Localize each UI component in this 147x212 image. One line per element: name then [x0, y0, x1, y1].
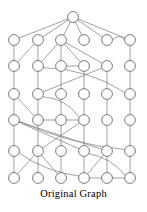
graph-node[interactable]: [33, 61, 44, 72]
graph-node[interactable]: [125, 35, 136, 46]
graph-diagram: [0, 0, 147, 190]
graph-edge: [75, 22, 81, 35]
graph-node[interactable]: [79, 146, 90, 157]
node-layer: [9, 12, 136, 184]
graph-node[interactable]: [102, 146, 113, 157]
graph-node[interactable]: [9, 115, 20, 126]
graph-node[interactable]: [9, 61, 20, 72]
graph-node[interactable]: [125, 146, 136, 157]
graph-node[interactable]: [79, 35, 90, 46]
graph-node[interactable]: [56, 146, 67, 157]
graph-edge: [19, 122, 79, 149]
graph-node[interactable]: [33, 115, 44, 126]
graph-node[interactable]: [56, 89, 67, 100]
graph-edge: [18, 44, 35, 62]
graph-node[interactable]: [9, 146, 20, 157]
graph-node[interactable]: [102, 115, 113, 126]
graph-edge: [19, 153, 79, 176]
graph-node[interactable]: [56, 173, 67, 184]
graph-node[interactable]: [125, 173, 136, 184]
graph-node[interactable]: [9, 35, 20, 46]
graph-node[interactable]: [102, 61, 113, 72]
graph-node[interactable]: [102, 173, 113, 184]
graph-edge: [43, 68, 102, 92]
graph-node[interactable]: [56, 61, 67, 72]
graph-node[interactable]: [125, 89, 136, 100]
graph-node[interactable]: [79, 89, 90, 100]
graph-node[interactable]: [33, 35, 44, 46]
graph-edge: [42, 44, 58, 62]
edge-layer: [14, 19, 130, 178]
graph-node[interactable]: [9, 89, 20, 100]
graph-node[interactable]: [79, 61, 90, 72]
graph-node[interactable]: [56, 115, 67, 126]
graph-node[interactable]: [56, 35, 67, 46]
graph-node[interactable]: [9, 173, 20, 184]
figure-caption: Original Graph: [0, 188, 147, 199]
graph-node[interactable]: [33, 89, 44, 100]
graph-node[interactable]: [102, 89, 113, 100]
graph-node[interactable]: [79, 173, 90, 184]
graph-edge: [63, 22, 70, 35]
graph-node[interactable]: [79, 115, 90, 126]
graph-edge: [18, 98, 35, 116]
figure-container: Original Graph: [0, 0, 147, 212]
graph-node[interactable]: [125, 115, 136, 126]
graph-node[interactable]: [102, 35, 113, 46]
graph-node[interactable]: [33, 146, 44, 157]
graph-node[interactable]: [33, 173, 44, 184]
graph-node[interactable]: [68, 12, 79, 23]
graph-edge: [43, 20, 69, 37]
graph-node[interactable]: [125, 61, 136, 72]
graph-edge: [88, 155, 104, 174]
